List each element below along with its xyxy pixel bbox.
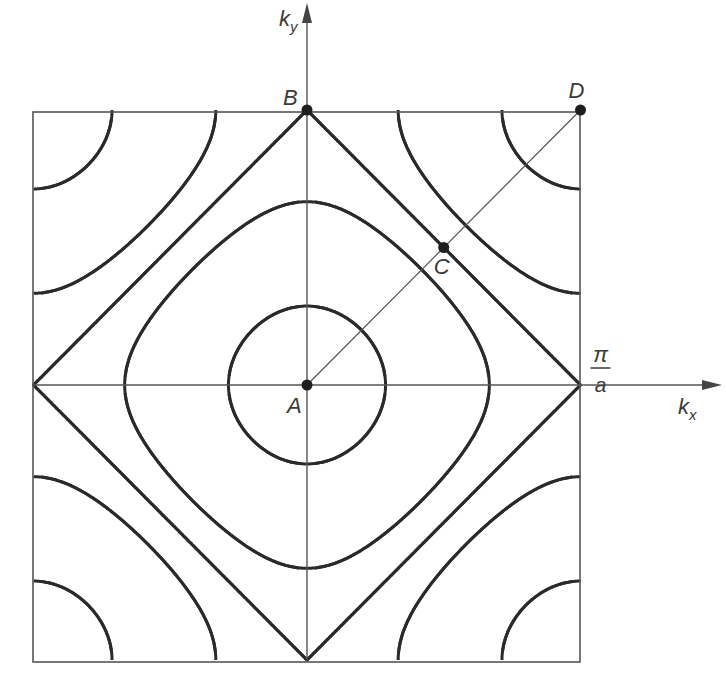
symmetry-points: ABCD: [283, 78, 586, 418]
energy-contour-3: [399, 118, 581, 293]
brillouin-zone-diagram: ABCD ky kx π a: [0, 0, 726, 689]
point-C-marker: [438, 242, 449, 253]
ky-arrow-icon: [302, 3, 312, 23]
energy-contour-4: [502, 582, 572, 660]
point-A-marker: [302, 380, 313, 391]
energy-contour-3: [34, 477, 216, 652]
energy-contour-4: [502, 110, 572, 188]
pi-denominator: a: [595, 373, 607, 396]
energy-contour-3: [399, 477, 581, 652]
energy-contour-3: [42, 110, 216, 293]
pi-numerator: π: [593, 342, 609, 367]
energy-contour-3: [42, 477, 216, 660]
energy-contour-3: [398, 110, 572, 293]
point-D-marker: [575, 105, 586, 116]
energy-contour-4: [42, 582, 112, 660]
point-B-marker: [302, 105, 313, 116]
ky-axis-label: ky: [279, 6, 299, 35]
energy-contour-3: [34, 118, 216, 293]
point-B-label: B: [283, 85, 298, 110]
point-D-label: D: [569, 78, 585, 103]
energy-contour-3: [398, 477, 572, 660]
kx-arrow-icon: [702, 380, 722, 390]
point-A-label: A: [285, 393, 302, 418]
pi-over-a-label: π a: [591, 342, 611, 396]
point-C-label: C: [434, 254, 450, 279]
energy-contour-4: [42, 110, 112, 188]
kx-axis-label: kx: [678, 394, 697, 423]
